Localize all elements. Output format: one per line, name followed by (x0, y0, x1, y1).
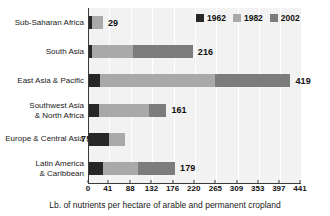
bar-row[interactable] (89, 45, 193, 58)
legend: 196219822002 (196, 13, 300, 23)
bar-segment-1982[interactable] (100, 74, 215, 87)
x-tick-mark (88, 180, 89, 183)
legend-item[interactable]: 2002 (270, 13, 300, 23)
category-label: Europe & Central Asia (0, 135, 84, 145)
x-tick-mark (236, 180, 237, 183)
bar-segment-1982[interactable] (99, 104, 149, 117)
bar-segment-2002[interactable] (133, 45, 193, 58)
category-label: Sub-Saharan Africa (0, 18, 84, 28)
bar-segment-1962[interactable] (89, 104, 99, 117)
x-tick-label: 176 (166, 184, 179, 193)
legend-item[interactable]: 1962 (196, 13, 226, 23)
x-tick-mark (172, 180, 173, 183)
bar-segment-1982[interactable] (103, 162, 138, 175)
category-label-line: Europe & Central Asia (0, 135, 84, 145)
legend-swatch-1982 (233, 14, 241, 22)
bar-segment-1982[interactable] (92, 16, 103, 29)
category-label: South Asia (0, 47, 84, 57)
x-tick-mark (107, 180, 108, 183)
category-label-line: South Asia (0, 47, 84, 57)
bar-segment-1962[interactable] (89, 133, 109, 146)
bar-value-label: 161 (171, 105, 186, 115)
category-label: Latin America& Caribbean (0, 159, 84, 178)
bar-segment-2002[interactable] (215, 74, 290, 87)
legend-label: 2002 (281, 13, 300, 23)
x-tick-mark (300, 180, 301, 183)
category-label-line: Southwest Asia (0, 101, 84, 111)
gridline (301, 8, 302, 183)
bar-row[interactable] (89, 133, 125, 146)
x-axis-ticks: 04188132176220265309353397441 (88, 184, 300, 196)
category-label-line: Latin America (0, 159, 84, 169)
bar-segment-2002[interactable] (138, 162, 175, 175)
category-label: Southwest Asia& North Africa (0, 101, 84, 120)
bar-row[interactable] (89, 74, 290, 87)
x-tick-mark (151, 180, 152, 183)
category-label: East Asia & Pacific (0, 76, 84, 86)
bar-value-label: 179 (180, 163, 195, 173)
category-label-line: & North Africa (0, 110, 84, 120)
x-tick-mark (193, 180, 194, 183)
bar-value-label: 216 (198, 47, 213, 57)
x-tick-label: 397 (272, 184, 285, 193)
x-tick-mark (130, 180, 131, 183)
x-tick-label: 220 (187, 184, 200, 193)
category-axis-labels: Sub-Saharan AfricaSouth AsiaEast Asia & … (0, 8, 84, 183)
legend-swatch-2002 (270, 14, 278, 22)
x-tick-mark (278, 180, 279, 183)
bar-segment-1982[interactable] (109, 133, 125, 146)
x-tick-label: 41 (103, 184, 112, 193)
bar-series-container: 2921641916175179 (89, 8, 301, 183)
x-tick-label: 353 (251, 184, 264, 193)
bar-row[interactable] (89, 104, 166, 117)
category-label-line: & Caribbean (0, 168, 84, 178)
x-tick-label: 441 (293, 184, 306, 193)
bar-row[interactable] (89, 16, 103, 29)
category-label-line: Sub-Saharan Africa (0, 18, 84, 28)
category-label-line: East Asia & Pacific (0, 76, 84, 86)
legend-label: 1982 (244, 13, 263, 23)
x-tick-label: 265 (209, 184, 222, 193)
bar-segment-1962[interactable] (89, 162, 103, 175)
legend-label: 1962 (207, 13, 226, 23)
plot-area: 2921641916175179 (88, 8, 301, 184)
x-tick-label: 0 (86, 184, 90, 193)
x-tick-label: 132 (145, 184, 158, 193)
bar-value-label: 29 (108, 18, 118, 28)
x-tick-label: 309 (230, 184, 243, 193)
x-tick-label: 88 (126, 184, 135, 193)
bar-value-label: 419 (295, 76, 310, 86)
bar-segment-1982[interactable] (92, 45, 133, 58)
x-tick-mark (215, 180, 216, 183)
bar-segment-1962[interactable] (89, 74, 100, 87)
bar-chart: Sub-Saharan AfricaSouth AsiaEast Asia & … (0, 0, 330, 216)
bar-row[interactable] (89, 162, 175, 175)
legend-item[interactable]: 1982 (233, 13, 263, 23)
bar-segment-2002[interactable] (149, 104, 166, 117)
x-axis-title: Lb. of nutrients per hectare of arable a… (0, 200, 330, 210)
x-tick-mark (257, 180, 258, 183)
legend-swatch-1962 (196, 14, 204, 22)
